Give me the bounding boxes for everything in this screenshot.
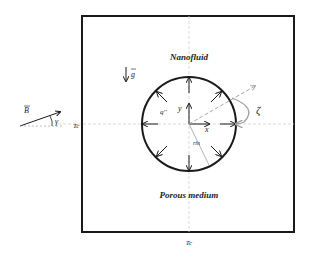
radius-label: rin bbox=[193, 140, 200, 146]
diagram-canvas: y x rin ζ q'' Nanofluid Porous medium g … bbox=[0, 0, 310, 257]
y-axis-label: y bbox=[177, 104, 182, 113]
x-axis-label: x bbox=[204, 125, 209, 134]
heat-flux-label: q'' bbox=[160, 108, 167, 116]
gamma-angle-arc bbox=[50, 116, 52, 126]
nanofluid-label: Nanofluid bbox=[169, 52, 209, 62]
gamma-label: γ bbox=[55, 117, 59, 126]
zeta-label: ζ bbox=[256, 104, 262, 117]
left-wall-temp-label: Tc bbox=[73, 122, 80, 130]
magnetic-field-label: B bbox=[24, 106, 29, 115]
gravity-label: g bbox=[131, 70, 135, 79]
bottom-wall-temp-label: Tc bbox=[186, 239, 193, 247]
porous-medium-label: Porous medium bbox=[160, 190, 219, 200]
